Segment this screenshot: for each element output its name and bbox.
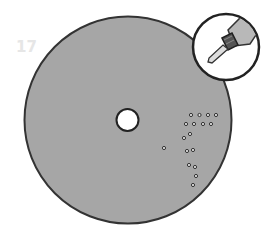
drilled-hole <box>209 122 212 125</box>
drilled-hole <box>214 113 217 116</box>
drilled-hole <box>182 136 185 139</box>
drilled-hole <box>184 122 187 125</box>
drill-inset <box>193 14 262 80</box>
drilled-hole <box>162 146 165 149</box>
cd-drilling-illustration <box>0 0 273 235</box>
drilled-hole <box>193 165 196 168</box>
drilled-hole <box>185 149 188 152</box>
drilled-hole <box>191 183 194 186</box>
drilled-hole <box>198 113 201 116</box>
drilled-hole <box>192 122 195 125</box>
center-hole <box>117 109 139 131</box>
drilled-hole <box>206 113 209 116</box>
drilled-hole <box>194 174 197 177</box>
drilled-hole <box>191 148 194 151</box>
drilled-hole <box>188 132 191 135</box>
drilled-hole <box>189 113 192 116</box>
drilled-hole <box>201 122 204 125</box>
drilled-hole <box>187 163 190 166</box>
